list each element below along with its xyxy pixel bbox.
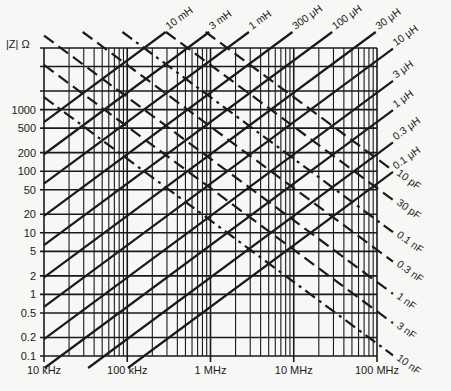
inductor-line <box>88 142 393 368</box>
y-tick-label: 50 <box>24 184 36 196</box>
y-tick-label: 500 <box>18 122 36 134</box>
y-tick-label: 0.2 <box>21 331 36 343</box>
x-tick-label: 1 MHz <box>195 364 227 376</box>
series-label: 10 pF <box>395 167 424 192</box>
y-axis-title: |Z| Ω <box>6 38 30 50</box>
x-tick-label: 10 MHz <box>275 364 313 376</box>
series-label: 1 nF <box>395 290 419 312</box>
series-label: 300 μH <box>290 2 325 32</box>
y-tick-label: 0.5 <box>21 307 36 319</box>
y-tick-label: 0.1 <box>21 350 36 362</box>
series-label: 1 μH <box>390 87 415 110</box>
series-label: 3 nF <box>395 319 419 341</box>
series-label: 0.3 μH <box>390 114 422 142</box>
series-label: 30 pF <box>395 196 424 221</box>
y-tick-label: 10 <box>24 227 36 239</box>
y-tick-label: 100 <box>18 165 36 177</box>
series-lines <box>44 32 393 368</box>
impedance-chart: 10 mH3 mH1 mH300 μH100 μH30 μH10 μH3 μH1… <box>0 0 451 391</box>
x-tick-label: 100 MHz <box>355 364 399 376</box>
x-axis-ticks: 10 kHz100 kHz1 MHz10 MHz100 MHz <box>27 364 399 376</box>
series-label: 30 μH <box>373 5 403 31</box>
y-axis-ticks: 10005002001005020105210.50.20.1 <box>12 104 36 362</box>
series-label: 10 μH <box>390 22 420 48</box>
y-tick-label: 2 <box>30 270 36 282</box>
series-label: 0.1 nF <box>395 228 426 255</box>
capacitor-line <box>44 36 393 294</box>
y-tick-label: 1 <box>30 288 36 300</box>
series-label: 10 mH <box>163 4 195 32</box>
series-label: 3 mH <box>206 7 233 31</box>
series-label: 0.1 μH <box>390 143 422 171</box>
y-tick-label: 20 <box>24 208 36 220</box>
y-tick-label: 200 <box>18 147 36 159</box>
series-label: 0.3 nF <box>395 258 426 285</box>
series-label: 10 nF <box>395 351 424 376</box>
inductor-line <box>44 32 332 245</box>
series-label: 100 μH <box>329 2 364 32</box>
y-tick-label: 5 <box>30 245 36 257</box>
capacitor-line <box>44 97 393 355</box>
y-tick-label: 1000 <box>12 104 36 116</box>
x-tick-label: 10 kHz <box>27 364 61 376</box>
inductor-line <box>44 32 249 184</box>
series-label: 3 μH <box>390 58 415 81</box>
series-label: 1 mH <box>246 7 273 31</box>
x-tick-label: 100 kHz <box>107 364 147 376</box>
